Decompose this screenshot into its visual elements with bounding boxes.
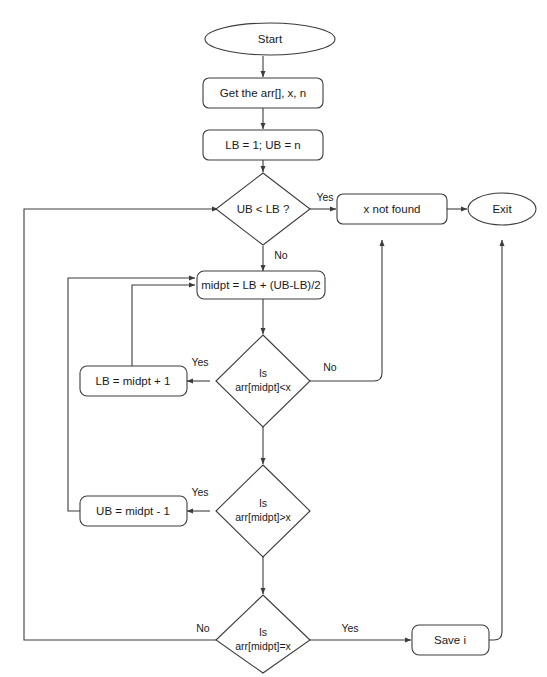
node-cmp-equal-label-line2: arr[midpt]=x xyxy=(235,640,291,652)
edge-label-greater-yes: Yes xyxy=(191,486,208,498)
edge-save-to-exit xyxy=(489,240,502,640)
edge-label-bounds-no: No xyxy=(274,249,288,261)
node-start-label: Start xyxy=(258,33,283,45)
edge-label-equal-no: No xyxy=(196,622,210,634)
node-init-label: LB = 1; UB = n xyxy=(225,139,300,151)
node-input[interactable]: Get the arr[], x, n xyxy=(203,78,323,108)
edge-lbupdate-to-midpt xyxy=(132,285,195,366)
edge-cmpless-no-to-notfound xyxy=(310,240,382,381)
edge-label-less-yes: Yes xyxy=(191,356,208,368)
edge-label-equal-yes: Yes xyxy=(341,622,358,634)
node-lb-update-label: LB = midpt + 1 xyxy=(96,375,171,387)
node-input-label: Get the arr[], x, n xyxy=(220,87,306,99)
node-check-bounds-label: UB < LB ? xyxy=(237,203,290,215)
node-midpt[interactable]: midpt = LB + (UB-LB)/2 xyxy=(197,271,325,299)
edge-label-less-no: No xyxy=(323,361,337,373)
node-cmp-equal-label-line1: Is xyxy=(259,626,267,638)
node-cmp-greater-label-line1: Is xyxy=(259,497,267,509)
edge-cmpequal-no-to-checkbounds xyxy=(24,209,218,640)
node-midpt-label: midpt = LB + (UB-LB)/2 xyxy=(201,279,321,291)
node-not-found-label: x not found xyxy=(364,203,421,215)
node-cmp-less-label-line1: Is xyxy=(259,367,267,379)
node-init[interactable]: LB = 1; UB = n xyxy=(203,130,323,160)
node-ub-update-label: UB = midpt - 1 xyxy=(96,505,170,517)
edge-label-bounds-yes: Yes xyxy=(316,191,333,203)
node-save[interactable]: Save i xyxy=(412,625,489,655)
node-check-bounds[interactable]: UB < LB ? xyxy=(216,173,310,245)
node-not-found[interactable]: x not found xyxy=(337,194,447,224)
node-cmp-greater[interactable]: Is arr[midpt]>x xyxy=(216,465,310,557)
node-cmp-greater-label-line2: arr[midpt]>x xyxy=(235,511,291,523)
node-cmp-equal[interactable]: Is arr[midpt]=x xyxy=(216,595,310,673)
node-cmp-less[interactable]: Is arr[midpt]<x xyxy=(216,335,310,427)
node-exit[interactable]: Exit xyxy=(468,193,536,225)
flowchart-diagram: Start Get the arr[], x, n LB = 1; UB = n… xyxy=(0,0,547,677)
node-start[interactable]: Start xyxy=(205,23,335,55)
node-exit-label: Exit xyxy=(492,203,512,215)
node-lb-update[interactable]: LB = midpt + 1 xyxy=(80,366,187,396)
node-save-label: Save i xyxy=(434,634,466,646)
node-cmp-less-label-line2: arr[midpt]<x xyxy=(235,381,291,393)
node-ub-update[interactable]: UB = midpt - 1 xyxy=(80,496,187,526)
